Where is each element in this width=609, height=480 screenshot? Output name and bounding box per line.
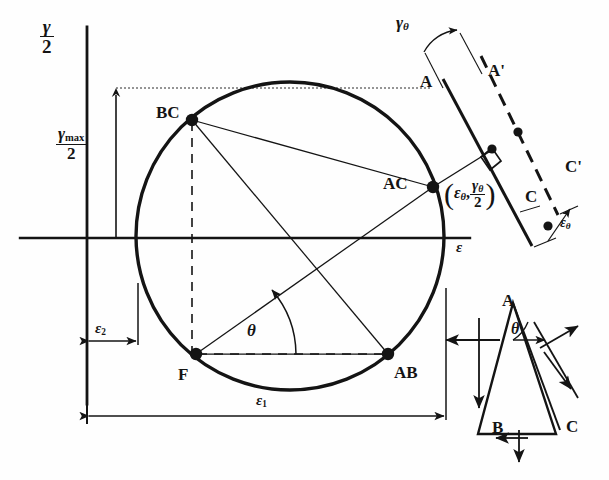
mohrs-circle-figure: γ 2 ε γmax 2 ε2 ε1 θ γθ εθ (εθ, γθ 2 ) θ [0, 0, 609, 480]
point-marker-ac [427, 181, 439, 193]
point-label-ab: AB [394, 364, 418, 381]
epsilon1-label: ε1 [256, 393, 267, 409]
two-denominator: 2 [40, 36, 54, 56]
epsilon2-label: ε2 [95, 321, 106, 337]
gamma-max-numerator: γmax [56, 125, 86, 144]
coordinate-pair-label: (εθ, γθ 2 ) [444, 178, 495, 210]
point-marker-ab [382, 348, 394, 360]
rosette-label-a: A [420, 73, 432, 90]
point-label-ac: AC [383, 175, 408, 192]
gamma-symbol: γ [40, 17, 54, 36]
freebody-label-c: C [566, 418, 578, 435]
gamma-max-label: γmax 2 [56, 125, 86, 162]
paren-close: ) [485, 177, 495, 210]
epsilon2-subscript: 2 [101, 327, 106, 337]
coord-gamma-numerator: γθ [470, 178, 485, 194]
coord-gamma-denominator: 2 [470, 194, 485, 210]
epsilon-theta-label: εθ [560, 216, 571, 231]
rosette-label-c: C [525, 188, 537, 205]
epsilon-theta-subscript: θ [566, 221, 571, 231]
theta-label-inset: θ [511, 321, 519, 337]
point-label-f: F [178, 366, 188, 383]
gamma-theta-subscript: θ [403, 20, 409, 32]
rosette-label-cprime: C' [565, 158, 582, 175]
point-label-bc: BC [156, 104, 180, 121]
horizontal-axis-label: ε [456, 240, 462, 255]
freebody-label-a: A [502, 292, 514, 309]
rosette-label-aprime: A' [488, 62, 505, 79]
freebody-label-b: B [492, 419, 503, 436]
point-marker-bc [186, 114, 198, 126]
gamma-max-subscript: max [65, 132, 84, 143]
vertical-axis-label: γ 2 [40, 17, 54, 57]
point-marker-f [190, 348, 202, 360]
epsilon1-subscript: 1 [262, 399, 267, 409]
theta-label-main: θ [247, 322, 256, 339]
gamma-max-denominator: 2 [56, 144, 86, 162]
paren-open: ( [444, 177, 454, 210]
gamma-theta-label: γθ [396, 14, 409, 32]
coord-gamma-subscript: θ [478, 183, 483, 194]
point-markers-layer [0, 0, 609, 480]
